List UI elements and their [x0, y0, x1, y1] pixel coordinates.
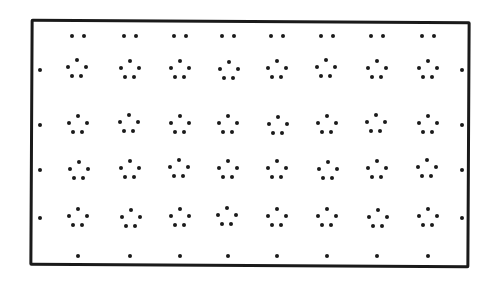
- bottom-single-dot: [426, 254, 430, 258]
- cluster-dot: [267, 122, 271, 126]
- bottom-single-dot: [178, 254, 182, 258]
- cluster-dot: [218, 67, 222, 71]
- top-pair-dot: [220, 34, 224, 38]
- cluster-dot: [68, 167, 72, 171]
- cluster-dot: [320, 223, 324, 227]
- cluster-dot: [279, 175, 283, 179]
- cluster-dot: [72, 176, 76, 180]
- cluster-dot: [217, 121, 221, 125]
- top-pair-dot: [134, 34, 138, 38]
- top-pair-dot: [319, 34, 323, 38]
- cluster-dot: [270, 175, 274, 179]
- cluster-dot: [430, 223, 434, 227]
- top-pair-dot: [281, 34, 285, 38]
- cluster-dot: [86, 167, 90, 171]
- cluster-dot: [376, 208, 380, 212]
- cluster-dot: [178, 59, 182, 63]
- cluster-dot: [426, 59, 430, 63]
- top-pair-dot: [331, 34, 335, 38]
- cluster-dot: [85, 121, 89, 125]
- cluster-dot: [67, 121, 71, 125]
- cluster-dot: [316, 214, 320, 218]
- bottom-single-dot: [375, 254, 379, 258]
- cluster-dot: [182, 223, 186, 227]
- top-pair-dot: [172, 34, 176, 38]
- cluster-dot: [426, 207, 430, 211]
- cluster-dot: [266, 66, 270, 70]
- cluster-dot: [76, 114, 80, 118]
- edge-dot-left: [38, 216, 42, 220]
- cluster-dot: [367, 215, 371, 219]
- cluster-dot: [236, 67, 240, 71]
- cluster-dot: [119, 166, 123, 170]
- cluster-dot: [325, 114, 329, 118]
- cluster-dot: [375, 159, 379, 163]
- cluster-dot: [85, 214, 89, 218]
- cluster-dot: [284, 66, 288, 70]
- cluster-dot: [326, 160, 330, 164]
- cluster-dot: [316, 121, 320, 125]
- cluster-dot: [279, 75, 283, 79]
- cluster-dot: [320, 130, 324, 134]
- cluster-dot: [80, 130, 84, 134]
- cluster-dot: [321, 176, 325, 180]
- edge-dot-right: [460, 123, 464, 127]
- cluster-dot: [137, 166, 141, 170]
- cluster-dot: [271, 131, 275, 135]
- top-pair-dot: [82, 34, 86, 38]
- cluster-dot: [276, 115, 280, 119]
- cluster-dot: [430, 75, 434, 79]
- cluster-dot: [366, 166, 370, 170]
- top-pair-dot: [269, 34, 273, 38]
- cluster-dot: [329, 130, 333, 134]
- cluster-dot: [325, 207, 329, 211]
- cluster-dot: [385, 215, 389, 219]
- top-pair-dot: [420, 34, 424, 38]
- cluster-dot: [275, 59, 279, 63]
- top-pair-dot: [184, 34, 188, 38]
- cluster-dot: [178, 207, 182, 211]
- cluster-dot: [334, 214, 338, 218]
- cluster-dot: [67, 214, 71, 218]
- cluster-dot: [421, 75, 425, 79]
- edge-dot-right: [460, 168, 464, 172]
- cluster-dot: [370, 175, 374, 179]
- bottom-single-dot: [76, 254, 80, 258]
- cluster-dot: [379, 175, 383, 179]
- cluster-dot: [80, 223, 84, 227]
- cluster-dot: [182, 75, 186, 79]
- cluster-dot: [417, 214, 421, 218]
- top-pair-dot: [70, 34, 74, 38]
- cluster-dot: [187, 66, 191, 70]
- cluster-dot: [230, 130, 234, 134]
- edge-dot-right: [460, 216, 464, 220]
- cluster-dot: [173, 75, 177, 79]
- top-pair-dot: [381, 34, 385, 38]
- cluster-dot: [227, 60, 231, 64]
- cluster-dot: [187, 214, 191, 218]
- edge-dot-left: [38, 168, 42, 172]
- cluster-dot: [226, 114, 230, 118]
- top-pair-dot: [232, 34, 236, 38]
- top-pair-dot: [369, 34, 373, 38]
- cluster-dot: [76, 207, 80, 211]
- cluster-dot: [222, 76, 226, 80]
- cluster-dot: [275, 159, 279, 163]
- cluster-dot: [169, 66, 173, 70]
- cluster-dot: [266, 166, 270, 170]
- edge-dot-left: [38, 123, 42, 127]
- cluster-dot: [235, 121, 239, 125]
- cluster-dot: [81, 176, 85, 180]
- cluster-dot: [71, 223, 75, 227]
- top-pair-dot: [432, 34, 436, 38]
- cluster-dot: [380, 224, 384, 228]
- cluster-dot: [317, 167, 321, 171]
- cluster-dot: [280, 131, 284, 135]
- edge-dot-left: [38, 68, 42, 72]
- bottom-single-dot: [275, 254, 279, 258]
- cluster-dot: [138, 215, 142, 219]
- cluster-dot: [77, 160, 81, 164]
- cluster-dot: [123, 175, 127, 179]
- cluster-dot: [285, 122, 289, 126]
- cluster-dot: [435, 66, 439, 70]
